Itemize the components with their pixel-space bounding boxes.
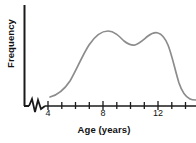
x-tick-label-12: 12 — [149, 108, 167, 118]
frequency-curve — [50, 31, 196, 100]
frequency-age-chart: Frequency 4 8 12 Age (years) — [0, 0, 196, 143]
y-axis-title: Frequency — [5, 8, 16, 80]
x-axis-title: Age (years) — [24, 124, 184, 135]
chart-plot-area — [0, 0, 196, 143]
x-tick-label-4: 4 — [40, 108, 56, 118]
x-tick-label-8: 8 — [95, 108, 111, 118]
